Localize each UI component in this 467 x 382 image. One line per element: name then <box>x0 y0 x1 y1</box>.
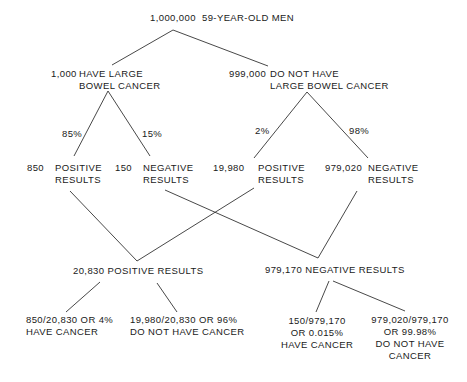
edge-850-to-positive-total <box>70 191 137 261</box>
outcome-positive-not-line2: DO NOT HAVE CANCER <box>130 326 245 338</box>
outcome-negative-have-line1: 150/979,170 <box>281 315 353 327</box>
node-cancer-label: HAVE LARGE BOWEL CANCER <box>79 68 161 92</box>
edge-negative-not <box>333 281 405 311</box>
outcome-negative-not-line1: 979,020/979,170 <box>368 314 452 326</box>
result-979020-label: NEGATIVE RESULTS <box>368 162 419 186</box>
edge-negative-have <box>316 281 329 312</box>
result-19980-label: POSITIVE RESULTS <box>258 162 305 186</box>
result-850-count: 850 <box>27 162 44 174</box>
edge-cancer-negative <box>108 91 150 156</box>
rate-nocancer-positive: 2% <box>255 125 270 137</box>
result-979020-line1: NEGATIVE <box>368 162 419 174</box>
result-19980-line1: POSITIVE <box>258 162 305 174</box>
total-positive: 20,830 POSITIVE RESULTS <box>73 265 203 277</box>
rate-cancer-negative: 15% <box>142 128 162 140</box>
result-150-label: NEGATIVE RESULTS <box>143 162 194 186</box>
outcome-negative-have-line2: OR 0.015% <box>281 327 353 339</box>
result-850-line1: POSITIVE <box>55 162 102 174</box>
result-850-label: POSITIVE RESULTS <box>55 162 102 186</box>
result-979020-count: 979,020 <box>325 162 362 174</box>
edge-root-no-cancer <box>173 30 268 66</box>
result-979020-line2: RESULTS <box>368 174 419 186</box>
node-cancer-line2: BOWEL CANCER <box>79 80 161 92</box>
result-150-count: 150 <box>115 162 132 174</box>
result-150-line1: NEGATIVE <box>143 162 194 174</box>
root-count: 1,000,000 <box>150 12 196 23</box>
node-cancer-line1: HAVE LARGE <box>79 68 161 80</box>
outcome-negative-not-line4: CANCER <box>368 350 452 362</box>
outcome-positive-not: 19,980/20,830 OR 96% DO NOT HAVE CANCER <box>130 314 245 338</box>
edge-root-cancer <box>112 30 173 65</box>
node-nocancer-line2: LARGE BOWEL CANCER <box>270 80 389 92</box>
node-nocancer-label: DO NOT HAVE LARGE BOWEL CANCER <box>270 68 389 92</box>
edge-979020-to-negative-total <box>318 191 357 258</box>
outcome-negative-not-line3: DO NOT HAVE <box>368 338 452 350</box>
outcome-negative-not-line2: OR 99.98% <box>368 326 452 338</box>
result-850-line2: RESULTS <box>55 174 102 186</box>
outcome-negative-not: 979,020/979,170 OR 99.98% DO NOT HAVE CA… <box>368 314 452 362</box>
edge-150-to-negative-total <box>165 190 318 258</box>
root-label: 59-YEAR-OLD MEN <box>202 12 294 23</box>
result-150-line2: RESULTS <box>143 174 194 186</box>
node-nocancer-line1: DO NOT HAVE <box>270 68 389 80</box>
outcome-negative-have-line3: HAVE CANCER <box>281 339 353 351</box>
outcome-positive-have: 850/20,830 OR 4% HAVE CANCER <box>26 314 113 338</box>
node-nocancer-count: 999,000 <box>229 68 266 80</box>
node-cancer-count: 1,000 <box>51 68 77 80</box>
root-node: 1,000,000 59-YEAR-OLD MEN <box>150 12 294 24</box>
result-19980-line2: RESULTS <box>258 174 305 186</box>
edge-positive-have <box>66 282 100 312</box>
outcome-positive-not-line1: 19,980/20,830 OR 96% <box>130 314 245 326</box>
rate-nocancer-negative: 98% <box>349 125 369 137</box>
edge-cancer-positive <box>74 91 108 156</box>
outcome-positive-have-line1: 850/20,830 OR 4% <box>26 314 113 326</box>
outcome-negative-have: 150/979,170 OR 0.015% HAVE CANCER <box>281 315 353 351</box>
rate-cancer-positive: 85% <box>62 128 82 140</box>
total-negative: 979,170 NEGATIVE RESULTS <box>265 264 405 276</box>
edge-positive-not <box>157 283 177 312</box>
outcome-positive-have-line2: HAVE CANCER <box>26 326 113 338</box>
result-19980-count: 19,980 <box>213 162 244 174</box>
edge-19980-to-positive-total <box>137 188 254 261</box>
